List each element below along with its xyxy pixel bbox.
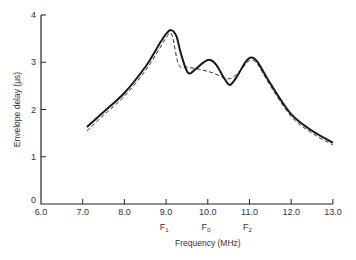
x-tick-label: 8.0 <box>118 207 131 217</box>
data-series <box>87 30 333 145</box>
frequency-marker-label: F2 <box>243 222 253 233</box>
y-tick-label: 4 <box>31 10 36 20</box>
frequency-marker-label: F1 <box>160 222 170 233</box>
x-tick-label: 9.0 <box>160 207 173 217</box>
axes <box>41 15 333 204</box>
y-tick-label: 3 <box>31 57 36 67</box>
x-tick-label: 11.0 <box>241 207 258 217</box>
y-tick-label: 0 <box>31 195 36 205</box>
solid-curve <box>87 30 333 143</box>
x-tick-label: 7.0 <box>76 207 89 217</box>
y-tick-label: 1 <box>31 152 36 162</box>
axis-ticks: 6.07.08.09.010.011.012.013.001234 <box>31 10 342 217</box>
x-tick-label: 12.0 <box>282 207 300 217</box>
axis-lines <box>41 15 333 204</box>
envelope-delay-chart: 6.07.08.09.010.011.012.013.001234 F1F0F2… <box>0 0 356 260</box>
y-axis-title: Envelope delay (μs) <box>12 72 22 147</box>
frequency-markers: F1F0F2 <box>160 222 253 233</box>
x-tick-label: 13.0 <box>324 207 342 217</box>
x-tick-label: 6.0 <box>35 207 48 217</box>
x-axis-title: Frequency (MHz) <box>175 238 241 248</box>
frequency-marker-label: F0 <box>201 222 211 233</box>
x-tick-label: 10.0 <box>199 207 217 217</box>
y-tick-label: 2 <box>31 105 36 115</box>
dashed-curve <box>87 33 333 145</box>
